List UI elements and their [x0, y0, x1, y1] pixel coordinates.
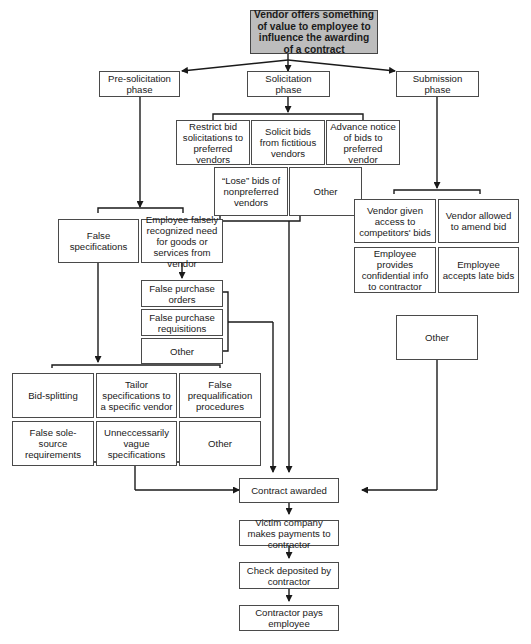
root-box-vendor-offers-value: Vendor offers something of value to empl… — [250, 10, 378, 54]
scheme-amend-bid: Vendor allowed to amend bid — [438, 199, 519, 243]
scheme-restrict-bid-solicitations: Restrict bid solicitations to preferred … — [176, 120, 250, 165]
scheme-tailor-specifications: Tailor specifications to a specific vend… — [96, 373, 177, 418]
scheme-false-prequalification: False prequalification procedures — [179, 373, 261, 418]
scheme-advance-notice: Advance notice of bids to preferred vend… — [326, 120, 400, 165]
scheme-bid-splitting: Bid-splitting — [12, 373, 94, 418]
scheme-false-sole-source: False sole-source requirements — [12, 421, 94, 466]
phase-submission: Submission phase — [396, 71, 479, 97]
phase-solicitation: Solicitation phase — [247, 71, 330, 97]
outcome-victim-payments: Victim company makes payments to contrac… — [239, 520, 339, 546]
scheme-need-other: Other — [141, 338, 223, 364]
scheme-late-bids: Employee accepts late bids — [438, 247, 519, 293]
scheme-access-competitor-bids: Vendor given access to competitors' bids — [354, 199, 436, 243]
outcome-contractor-pays-employee: Contractor pays employee — [239, 605, 339, 631]
scheme-solicitation-other: Other — [289, 167, 362, 216]
outcome-contract-awarded: Contract awarded — [239, 478, 339, 503]
scheme-fictitious-vendors: Solicit bids from fictitious vendors — [251, 120, 325, 165]
phase-pre-solicitation: Pre-solicitation phase — [99, 71, 180, 97]
scheme-spec-other: Other — [179, 421, 261, 466]
scheme-submission-other: Other — [396, 315, 478, 360]
scheme-lose-bids: “Lose” bids of nonpreferred vendors — [214, 167, 288, 216]
bid-rigging-flowchart: Vendor offers something of value to empl… — [0, 0, 531, 644]
scheme-false-specifications: False specifications — [58, 219, 139, 263]
outcome-check-deposited: Check deposited by contractor — [239, 562, 339, 589]
scheme-false-purchase-requisitions: False purchase requisitions — [141, 309, 223, 336]
scheme-false-need: Employee falsely recognized need for goo… — [141, 219, 223, 263]
scheme-vague-specifications: Unneccessarily vague specifications — [96, 421, 177, 466]
scheme-false-purchase-orders: False purchase orders — [141, 280, 223, 307]
scheme-confidential-info: Employee provides confidential info to c… — [354, 247, 436, 293]
